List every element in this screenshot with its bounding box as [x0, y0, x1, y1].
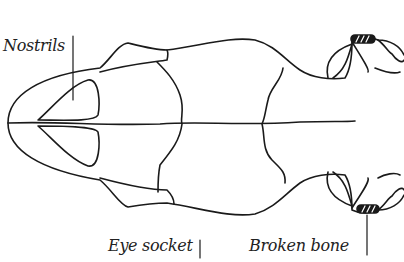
suture-back	[262, 68, 285, 183]
lower-ear-top	[378, 174, 400, 178]
lower-ear-flap	[327, 172, 352, 206]
upper-ear-inner	[352, 42, 368, 72]
upper-inner-line	[100, 50, 168, 72]
skull-diagram: Nostrils Eye socket Broken bone	[0, 0, 404, 262]
nostril-lower	[38, 126, 99, 166]
label-broken-bone: Broken bone	[249, 236, 349, 255]
suture-front	[157, 62, 182, 192]
nostril-upper	[38, 80, 99, 120]
lower-ear-inner	[352, 178, 368, 208]
upper-ear-bottom	[375, 68, 400, 73]
label-eye-socket: Eye socket	[108, 236, 193, 255]
label-nostrils: Nostrils	[3, 36, 65, 55]
